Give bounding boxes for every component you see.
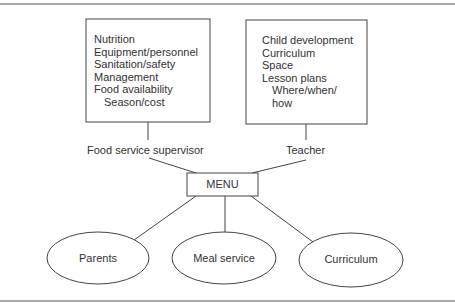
menu-to-curriculum-line <box>251 196 313 242</box>
curriculum-label: Curriculum <box>301 253 401 266</box>
supervisor-box-text: Nutrition Equipment/personnel Sanitation… <box>94 33 198 108</box>
supervisor-item: Management <box>94 71 198 84</box>
teacher-item: Curriculum <box>262 47 353 60</box>
supervisor-to-menu-line <box>149 158 196 173</box>
teacher-sub-item: Where/when/ <box>262 84 353 97</box>
supervisor-item: Sanitation/safety <box>94 58 198 71</box>
supervisor-item: Equipment/personnel <box>94 46 198 59</box>
teacher-item: Lesson plans <box>262 72 353 85</box>
teacher-to-menu-line <box>252 160 306 173</box>
menu-to-parents-line <box>134 196 196 240</box>
teacher-item: Child development <box>262 34 353 47</box>
teacher-sub-item: how <box>262 97 353 110</box>
diagram-canvas: Nutrition Equipment/personnel Sanitation… <box>0 0 455 308</box>
teacher-box-text: Child development Curriculum Space Lesso… <box>262 34 353 109</box>
meal-service-label: Meal service <box>174 252 274 265</box>
parents-label: Parents <box>48 252 148 265</box>
supervisor-item: Nutrition <box>94 33 198 46</box>
teacher-item: Space <box>262 59 353 72</box>
supervisor-role-label: Food service supervisor <box>87 144 204 157</box>
teacher-role-label: Teacher <box>286 144 325 157</box>
supervisor-sub-item: Season/cost <box>94 96 198 109</box>
menu-label: MENU <box>187 178 258 191</box>
supervisor-item: Food availability <box>94 83 198 96</box>
